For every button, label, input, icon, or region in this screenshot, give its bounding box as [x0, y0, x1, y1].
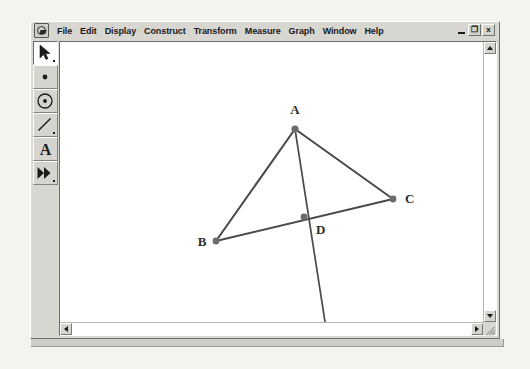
scroll-left-arrow-icon: [64, 326, 68, 332]
menu-graph[interactable]: Graph: [285, 25, 319, 37]
compass-circle-tool[interactable]: [33, 89, 58, 113]
point-A[interactable]: [291, 125, 298, 132]
restore-button[interactable]: ❐: [468, 24, 481, 36]
scroll-right-arrow-icon: [475, 326, 479, 332]
geometry-figure: A B C D: [60, 42, 483, 322]
menu-display[interactable]: Display: [101, 25, 140, 37]
text-tool[interactable]: A: [33, 137, 58, 161]
scroll-down-button[interactable]: [484, 310, 496, 322]
point-label-A[interactable]: A: [290, 102, 300, 117]
horizontal-scrollbar[interactable]: [60, 322, 483, 335]
close-button[interactable]: x: [482, 24, 495, 36]
menu-help[interactable]: Help: [360, 25, 387, 37]
tool-palette: A: [33, 41, 58, 185]
point-D[interactable]: [301, 214, 308, 221]
point-label-C[interactable]: C: [405, 191, 414, 206]
tool-expand-dot[interactable]: [53, 132, 55, 134]
point-label-D[interactable]: D: [316, 222, 325, 237]
scroll-up-arrow-icon: [487, 46, 493, 50]
scroll-left-button[interactable]: [60, 323, 72, 335]
window-controls: ❐ x: [457, 24, 495, 36]
menu-bar: File Edit Display Construct Transform Me…: [31, 22, 499, 39]
menu-measure[interactable]: Measure: [241, 25, 285, 37]
minimize-button[interactable]: [457, 24, 467, 36]
window-drop-shadow: [31, 339, 504, 347]
sketch-canvas[interactable]: A B C D: [60, 42, 483, 322]
selection-arrow-tool[interactable]: [33, 41, 58, 65]
sketchpad-app-icon[interactable]: [34, 23, 49, 38]
svg-text:A: A: [40, 141, 52, 158]
point-B[interactable]: [213, 238, 220, 245]
straightedge-segment-tool[interactable]: [33, 113, 58, 137]
menu-construct[interactable]: Construct: [140, 25, 190, 37]
sketch-document-frame: A B C D: [59, 41, 497, 336]
vertical-scrollbar[interactable]: [483, 42, 496, 322]
tool-expand-dot[interactable]: [53, 180, 55, 182]
point-tool[interactable]: [33, 65, 58, 89]
scroll-down-arrow-icon: [487, 314, 493, 318]
scroll-right-button[interactable]: [471, 323, 483, 335]
screen: File Edit Display Construct Transform Me…: [0, 0, 530, 369]
custom-transform-tool[interactable]: [33, 161, 58, 185]
menu-transform[interactable]: Transform: [190, 25, 241, 37]
menu-file[interactable]: File: [53, 25, 76, 37]
application-window: File Edit Display Construct Transform Me…: [30, 21, 500, 339]
menu-window[interactable]: Window: [319, 25, 361, 37]
segment-AC[interactable]: [295, 129, 393, 199]
point-C[interactable]: [390, 196, 397, 203]
tool-expand-dot[interactable]: [53, 60, 55, 62]
point-label-B[interactable]: B: [198, 234, 207, 249]
menu-edit[interactable]: Edit: [76, 25, 101, 37]
scroll-up-button[interactable]: [484, 42, 496, 54]
resize-grip[interactable]: [485, 325, 496, 336]
